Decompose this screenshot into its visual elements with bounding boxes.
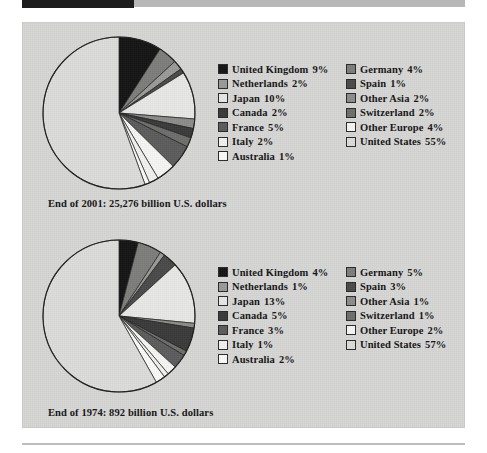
legend-item[interactable]: United States55% — [346, 135, 458, 150]
legend-item-label: Australia2% — [232, 354, 295, 365]
legend-item[interactable]: Other Europe4% — [346, 120, 458, 135]
legend-swatch-icon — [346, 282, 356, 292]
legend-item-label: Italy1% — [232, 339, 273, 350]
legend-item-percent: 1% — [390, 78, 406, 89]
legend-item[interactable]: Switzerland2% — [346, 106, 458, 121]
legend-swatch-icon — [218, 325, 228, 335]
legend-item-label: Other Europe4% — [360, 122, 443, 133]
legend-item-label: Japan13% — [232, 296, 285, 307]
legend-item-percent: 9% — [312, 64, 328, 75]
legend-item[interactable]: Spain3% — [346, 280, 458, 295]
legend-item[interactable]: Other Asia2% — [346, 91, 458, 106]
header-rule-light-segment — [134, 0, 465, 7]
legend-swatch-icon — [346, 311, 356, 321]
legend-swatch-icon — [218, 64, 228, 74]
legend-swatch-icon — [218, 137, 228, 147]
legend-item-percent: 1% — [258, 339, 274, 350]
legend-item-label: United States57% — [360, 339, 446, 350]
legend-swatch-icon — [218, 151, 228, 161]
legend-item[interactable]: Germany4% — [346, 62, 458, 77]
legend-item-percent: 55% — [425, 136, 446, 147]
legend-1974-column-left: United Kingdom4%Netherlands1%Japan13%Can… — [218, 265, 332, 367]
legend-1974-column-right: Germany5%Spain3%Other Asia1%Switzerland1… — [346, 265, 458, 367]
legend-item-percent: 4% — [428, 122, 444, 133]
legend-item-label: Japan10% — [232, 93, 285, 104]
legend-item[interactable]: France3% — [218, 323, 332, 338]
legend-item-label: Netherlands2% — [232, 78, 308, 89]
legend-item[interactable]: Australia1% — [218, 149, 332, 164]
legend-swatch-icon — [346, 79, 356, 89]
legend-item-label: Spain3% — [360, 281, 406, 292]
legend-item-label: United States55% — [360, 136, 446, 147]
legend-item[interactable]: Australia2% — [218, 352, 332, 367]
legend-item[interactable]: Italy1% — [218, 338, 332, 353]
legend-2001: United Kingdom9%Netherlands2%Japan10%Can… — [218, 62, 458, 164]
legend-item-percent: 13% — [264, 296, 285, 307]
legend-swatch-icon — [218, 311, 228, 321]
legend-item[interactable]: United Kingdom9% — [218, 62, 332, 77]
legend-item-label: Other Europe2% — [360, 325, 443, 336]
legend-swatch-icon — [218, 354, 228, 364]
figure-panel: United Kingdom9%Netherlands2%Japan10%Can… — [22, 22, 465, 428]
legend-2001-column-left: United Kingdom9%Netherlands2%Japan10%Can… — [218, 62, 332, 164]
legend-item-label: France5% — [232, 122, 284, 133]
legend-item-percent: 4% — [312, 267, 328, 278]
legend-item[interactable]: Italy2% — [218, 135, 332, 150]
legend-item[interactable]: Other Europe2% — [346, 323, 458, 338]
legend-item-percent: 1% — [292, 281, 308, 292]
legend-item-percent: 2% — [258, 136, 274, 147]
legend-swatch-icon — [218, 93, 228, 103]
legend-swatch-icon — [346, 93, 356, 103]
legend-item-percent: 2% — [414, 93, 430, 104]
legend-swatch-icon — [218, 79, 228, 89]
legend-item[interactable]: Spain1% — [346, 77, 458, 92]
legend-item-percent: 2% — [428, 325, 444, 336]
legend-swatch-icon — [218, 267, 228, 277]
footer-rule — [22, 443, 465, 445]
chart-block-1974: United Kingdom4%Netherlands1%Japan13%Can… — [22, 225, 465, 428]
legend-item-label: Canada5% — [232, 310, 288, 321]
legend-item[interactable]: Germany5% — [346, 265, 458, 280]
legend-item[interactable]: Switzerland1% — [346, 309, 458, 324]
legend-item[interactable]: Japan13% — [218, 294, 332, 309]
legend-item[interactable]: United States57% — [346, 338, 458, 353]
legend-item-percent: 4% — [407, 64, 423, 75]
chart-caption-1974: End of 1974: 892 billion U.S. dollars — [48, 407, 213, 418]
legend-item-percent: 5% — [272, 310, 288, 321]
legend-2001-column-right: Germany4%Spain1%Other Asia2%Switzerland2… — [346, 62, 458, 164]
legend-swatch-icon — [346, 267, 356, 277]
header-rule-dark-segment — [22, 0, 134, 8]
legend-item[interactable]: France5% — [218, 120, 332, 135]
legend-item-label: Australia1% — [232, 151, 295, 162]
legend-swatch-icon — [346, 108, 356, 118]
legend-item-label: Germany5% — [360, 267, 423, 278]
legend-item[interactable]: Other Asia1% — [346, 294, 458, 309]
legend-item[interactable]: United Kingdom4% — [218, 265, 332, 280]
legend-item-percent: 3% — [390, 281, 406, 292]
pie-chart-1974 — [40, 237, 198, 395]
legend-item-percent: 2% — [292, 78, 308, 89]
legend-item[interactable]: Japan10% — [218, 91, 332, 106]
legend-swatch-icon — [346, 137, 356, 147]
legend-item-label: France3% — [232, 325, 284, 336]
chart-block-2001: United Kingdom9%Netherlands2%Japan10%Can… — [22, 22, 465, 222]
legend-item-label: Netherlands1% — [232, 281, 308, 292]
pie-chart-2001 — [40, 34, 198, 192]
legend-item-percent: 1% — [419, 310, 435, 321]
legend-item-percent: 2% — [419, 107, 435, 118]
legend-item[interactable]: Canada5% — [218, 309, 332, 324]
legend-item[interactable]: Canada2% — [218, 106, 332, 121]
legend-item-label: Switzerland2% — [360, 107, 435, 118]
legend-swatch-icon — [218, 108, 228, 118]
legend-item-label: Switzerland1% — [360, 310, 435, 321]
legend-item-percent: 5% — [407, 267, 423, 278]
legend-item-label: Canada2% — [232, 107, 288, 118]
legend-swatch-icon — [218, 296, 228, 306]
legend-swatch-icon — [218, 122, 228, 132]
legend-item[interactable]: Netherlands2% — [218, 77, 332, 92]
pie-chart-1974-graphic — [40, 237, 198, 395]
legend-item-label: United Kingdom9% — [232, 64, 328, 75]
legend-item-label: United Kingdom4% — [232, 267, 328, 278]
legend-item-label: Other Asia1% — [360, 296, 429, 307]
legend-item[interactable]: Netherlands1% — [218, 280, 332, 295]
